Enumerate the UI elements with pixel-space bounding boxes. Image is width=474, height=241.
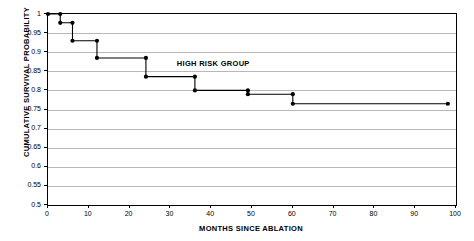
y-tick-label: 0.75: [5, 105, 41, 112]
x-tick-label: 100: [440, 210, 470, 217]
x-tick-label: 30: [154, 210, 184, 217]
y-tick-label: 0.8: [5, 86, 41, 93]
y-tick-mark: [44, 13, 47, 14]
y-tick-label: 0.85: [5, 67, 41, 74]
data-point-marker: [193, 75, 197, 79]
y-tick-mark: [44, 185, 47, 186]
plot-area: HIGH RISK GROUP: [47, 13, 457, 206]
x-tick-label: 10: [73, 210, 103, 217]
x-tick-label: 20: [114, 210, 144, 217]
y-tick-label: 0.6: [5, 162, 41, 169]
x-tick-mark: [455, 205, 456, 208]
y-tick-label: 0.7: [5, 124, 41, 131]
data-point-marker: [95, 56, 99, 60]
data-point-marker: [58, 12, 62, 16]
y-tick-label: 0.95: [5, 29, 41, 36]
x-tick-mark: [47, 205, 48, 208]
data-point-marker: [58, 21, 62, 25]
y-tick-mark: [44, 51, 47, 52]
data-point-marker: [291, 92, 295, 96]
data-point-marker: [144, 75, 148, 79]
x-tick-mark: [169, 205, 170, 208]
y-tick-mark: [44, 89, 47, 90]
x-tick-label: 0: [32, 210, 62, 217]
survival-chart: CUMULATIVE SURVIVAL PROBABILITY HIGH RIS…: [0, 0, 474, 241]
y-tick-mark: [44, 70, 47, 71]
x-axis-title: MONTHS SINCE ABLATION: [47, 224, 455, 233]
survival-curve-series: [48, 14, 458, 207]
x-tick-label: 70: [318, 210, 348, 217]
data-point-marker: [95, 39, 99, 43]
data-point-marker: [291, 102, 295, 106]
data-point-marker: [446, 102, 450, 106]
y-tick-mark: [44, 166, 47, 167]
data-point-marker: [246, 88, 250, 92]
data-point-marker: [193, 88, 197, 92]
data-point-marker: [70, 39, 74, 43]
y-tick-mark: [44, 32, 47, 33]
x-tick-mark: [88, 205, 89, 208]
x-tick-label: 80: [358, 210, 388, 217]
x-tick-mark: [333, 205, 334, 208]
y-tick-mark: [44, 128, 47, 129]
y-tick-label: 1: [5, 10, 41, 17]
x-tick-label: 60: [277, 210, 307, 217]
data-point-marker: [144, 56, 148, 60]
data-point-marker: [70, 21, 74, 25]
x-tick-mark: [414, 205, 415, 208]
y-tick-label: 0.55: [5, 181, 41, 188]
x-tick-mark: [251, 205, 252, 208]
data-point-marker: [246, 92, 250, 96]
x-tick-label: 40: [195, 210, 225, 217]
x-tick-mark: [373, 205, 374, 208]
series-annotation-high-risk-group: HIGH RISK GROUP: [177, 58, 250, 67]
y-tick-mark: [44, 109, 47, 110]
y-tick-label: 0.9: [5, 48, 41, 55]
y-tick-label: 0.65: [5, 143, 41, 150]
x-tick-label: 90: [399, 210, 429, 217]
y-tick-mark: [44, 147, 47, 148]
x-tick-mark: [292, 205, 293, 208]
x-tick-mark: [129, 205, 130, 208]
x-tick-mark: [210, 205, 211, 208]
x-tick-label: 50: [236, 210, 266, 217]
y-tick-label: 0.5: [5, 201, 41, 208]
